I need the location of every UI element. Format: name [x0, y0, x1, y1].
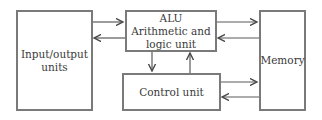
- control-unit-box: Control unit: [122, 73, 221, 111]
- io-units-label-line2: units: [41, 61, 68, 74]
- alu-label-line1: ALU: [160, 12, 183, 25]
- alu-label-line2: Arithmetic and: [131, 25, 211, 38]
- io-units-label-line1: Input/output: [21, 48, 88, 61]
- memory-box: Memory: [259, 10, 306, 111]
- memory-label: Memory: [260, 54, 304, 67]
- io-units-box: Input/output units: [16, 10, 93, 111]
- control-unit-label: Control unit: [139, 86, 203, 99]
- alu-label-line3: logic unit: [146, 38, 196, 51]
- alu-box: ALU Arithmetic and logic unit: [125, 10, 217, 52]
